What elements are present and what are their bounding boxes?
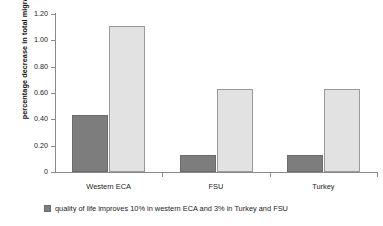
y-axis-title: percentage decrease in total migration [20, 0, 29, 142]
legend-label-series-1: quality of life improves 10% in western … [55, 205, 288, 212]
y-tick-label: 0.40 [34, 114, 48, 123]
y-tick: 0 [51, 172, 56, 173]
bar [72, 115, 108, 172]
x-tick-mark [162, 172, 163, 177]
x-category-label: Western ECA [86, 182, 131, 191]
bar [180, 155, 216, 172]
y-tick-label: 1.20 [34, 9, 48, 18]
x-tick-mark [377, 172, 378, 177]
plot-area [55, 14, 377, 172]
bar [217, 89, 253, 172]
y-tick-label: 0.80 [34, 62, 48, 71]
bar-chart: percentage decrease in total migration 0… [0, 0, 383, 226]
y-tick-label: 1.00 [34, 35, 48, 44]
y-tick-label: 0.60 [34, 88, 48, 97]
x-tick-mark [270, 172, 271, 177]
legend-swatch-series-1 [44, 205, 51, 212]
x-axis-line [55, 172, 377, 173]
x-category-label: FSU [209, 182, 224, 191]
x-category-label: Turkey [312, 182, 334, 191]
bar [109, 26, 145, 172]
y-tick-mark [51, 172, 56, 173]
chart-legend: quality of life improves 10% in western … [44, 205, 288, 212]
bar [324, 89, 360, 172]
bar [287, 155, 323, 172]
y-tick-label: 0.20 [34, 141, 48, 150]
y-tick-label: 0 [44, 167, 48, 176]
